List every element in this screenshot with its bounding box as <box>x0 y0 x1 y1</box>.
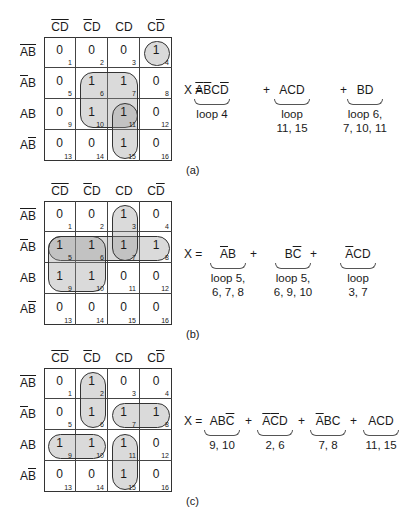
cell-value: 1 <box>44 269 75 283</box>
term-note: 9, 10 <box>192 438 252 452</box>
cell-value: 0 <box>140 374 172 388</box>
kmap-cell: 012 <box>140 430 172 461</box>
kmap-cell: 016 <box>140 130 172 161</box>
kmap-cell: 03 <box>108 368 140 399</box>
cell-index: 3 <box>132 59 136 66</box>
kmap-panel-c: CDCDCDCDABABABAB011203040516171819110111… <box>0 331 417 495</box>
cell-value: 1 <box>108 405 139 419</box>
equation-term: AB <box>204 247 252 261</box>
cell-index: 5 <box>68 90 72 97</box>
cell-value: 0 <box>140 269 172 283</box>
cell-value: 1 <box>76 74 107 88</box>
cell-value: 1 <box>76 269 107 283</box>
cell-value: 1 <box>108 105 139 119</box>
cell-index: 1 <box>68 59 72 66</box>
kmap-cell: 09 <box>44 99 76 130</box>
plus-sign: + <box>245 414 252 428</box>
cell-index: 15 <box>128 153 136 160</box>
kmap-cell: 03 <box>108 37 140 68</box>
cell-index: 4 <box>165 59 169 66</box>
cell-index: 2 <box>100 390 104 397</box>
kmap-cell: 01 <box>44 37 76 68</box>
cell-value: 1 <box>108 238 139 252</box>
plus-sign: + <box>310 247 317 261</box>
cell-value: 0 <box>44 43 75 57</box>
equation-term: ACD <box>334 247 382 261</box>
cell-value: 1 <box>108 467 139 481</box>
term-note: loop3, 7 <box>328 271 388 299</box>
cell-value: 1 <box>76 105 107 119</box>
cell-index: 13 <box>64 484 72 491</box>
kmap-cell: 015 <box>108 294 140 325</box>
kmap-cell: 013 <box>44 461 76 492</box>
plus-sign: + <box>250 247 257 261</box>
cell-index: 3 <box>132 390 136 397</box>
cell-value: 0 <box>44 405 75 419</box>
equation-term: ACD <box>268 83 316 97</box>
kmap-cell: 04 <box>140 201 172 232</box>
cell-value: 0 <box>108 269 139 283</box>
kmap-cell: 011 <box>108 263 140 294</box>
cell-value: 1 <box>108 436 139 450</box>
cell-value: 0 <box>108 300 139 314</box>
cell-value: 1 <box>44 238 75 252</box>
cell-index: 1 <box>68 390 72 397</box>
kmap-cell: 014 <box>76 294 108 325</box>
cell-index: 10 <box>96 285 104 292</box>
cell-index: 3 <box>132 223 136 230</box>
cell-value: 0 <box>44 105 75 119</box>
cell-index: 16 <box>161 153 169 160</box>
column-header: CD <box>44 184 76 198</box>
plus-sign: + <box>298 414 305 428</box>
kmap-grid: 010213041516171819110011012013014015016 <box>44 201 172 325</box>
equation-term: ACD <box>251 414 299 428</box>
kmap-cell: 016 <box>140 294 172 325</box>
cell-index: 7 <box>132 90 136 97</box>
underbrace <box>194 99 230 105</box>
underbrace <box>310 430 346 436</box>
cell-value: 1 <box>76 374 107 388</box>
cell-index: 13 <box>64 317 72 324</box>
kmap-cell: 013 <box>44 130 76 161</box>
cell-index: 2 <box>100 223 104 230</box>
kmap-cell: 012 <box>140 263 172 294</box>
term-note: loop 6,7, 10, 11 <box>335 107 395 135</box>
cell-index: 13 <box>64 153 72 160</box>
column-header: CD <box>44 20 76 34</box>
column-header: CD <box>44 351 76 365</box>
term-note: loop11, 15 <box>262 107 322 135</box>
cell-index: 8 <box>165 421 169 428</box>
cell-value: 0 <box>140 300 172 314</box>
cell-index: 6 <box>100 90 104 97</box>
column-header: CD <box>108 20 140 34</box>
term-note: 2, 6 <box>245 438 305 452</box>
cell-value: 0 <box>44 467 75 481</box>
column-header: CD <box>76 20 108 34</box>
cell-index: 12 <box>161 121 169 128</box>
cell-index: 1 <box>68 223 72 230</box>
cell-index: 11 <box>129 121 136 128</box>
equation-term: ABC <box>198 414 246 428</box>
cell-value: 0 <box>76 300 107 314</box>
underbrace <box>210 263 246 269</box>
cell-index: 9 <box>68 452 72 459</box>
column-header: CD <box>108 351 140 365</box>
cell-value: 0 <box>44 74 75 88</box>
cell-value: 1 <box>44 436 75 450</box>
cell-value: 1 <box>108 207 139 221</box>
equation-term: ACD <box>357 414 405 428</box>
column-header: CD <box>76 351 108 365</box>
cell-value: 0 <box>76 136 107 150</box>
plus-sign: + <box>263 83 270 97</box>
kmap-cell: 01 <box>44 368 76 399</box>
kmap-cell: 02 <box>76 37 108 68</box>
cell-value: 0 <box>140 105 172 119</box>
cell-index: 7 <box>132 254 136 261</box>
plus-sign: + <box>350 414 357 428</box>
cell-index: 5 <box>68 254 72 261</box>
cell-index: 8 <box>165 254 169 261</box>
term-note: 11, 15 <box>351 438 411 452</box>
cell-index: 6 <box>100 421 104 428</box>
cell-value: 1 <box>140 405 172 419</box>
cell-index: 6 <box>100 254 104 261</box>
